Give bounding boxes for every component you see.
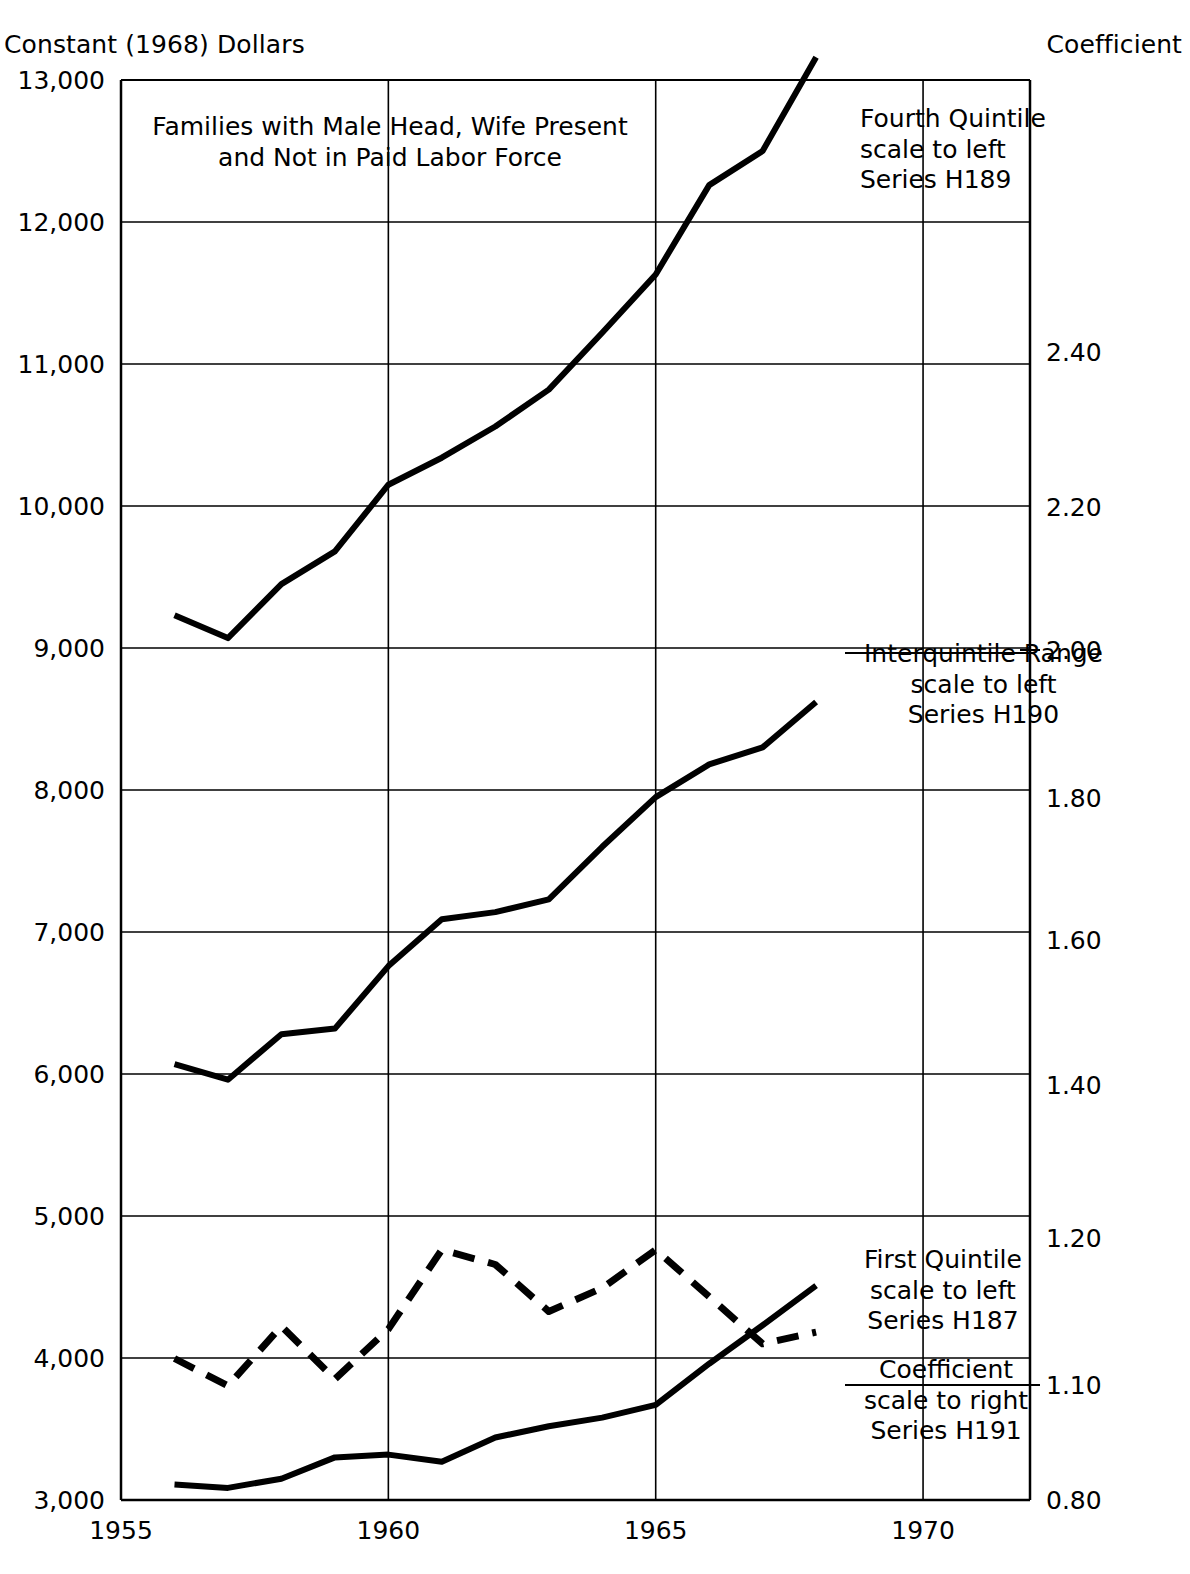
y-tick-label: 10,000	[0, 492, 105, 521]
series-line-H190	[175, 702, 817, 1080]
x-tick-label: 1965	[624, 1516, 688, 1545]
annotation-fourth-quintile-scale: scale to left	[860, 135, 1046, 166]
series-line-H187	[175, 1286, 817, 1488]
annotation-coefficient-name: Coefficient	[864, 1355, 1028, 1386]
y-tick-label: 6,000	[0, 1060, 105, 1089]
y2-tick-label: 1.60	[1046, 926, 1102, 955]
series-line-H191	[175, 1250, 817, 1386]
annotation-first-quintile-series: Series H187	[864, 1306, 1022, 1337]
plot-title: Families with Male Head, Wife Present an…	[152, 112, 627, 173]
annotation-first-quintile-scale: scale to left	[864, 1276, 1022, 1307]
y-tick-label: 7,000	[0, 918, 105, 947]
y-tick-label: 4,000	[0, 1344, 105, 1373]
y2-tick-label: 2.20	[1046, 493, 1102, 522]
chart-container: Constant (1968) Dollars Coefficient 3,00…	[0, 0, 1190, 1574]
annotation-first-quintile: First Quintile scale to left Series H187	[864, 1245, 1022, 1337]
annotation-coefficient: Coefficient scale to right Series H191	[864, 1355, 1028, 1447]
annotation-fourth-quintile-name: Fourth Quintile	[860, 104, 1046, 135]
y-tick-label: 13,000	[0, 66, 105, 95]
y-tick-label: 12,000	[0, 208, 105, 237]
y2-tick-label: 1.80	[1046, 784, 1102, 813]
annotation-fourth-quintile-series: Series H189	[860, 165, 1046, 196]
annotation-first-quintile-name: First Quintile	[864, 1245, 1022, 1276]
y-tick-label: 8,000	[0, 776, 105, 805]
plot-title-line-2: and Not in Paid Labor Force	[152, 143, 627, 174]
y-tick-label: 5,000	[0, 1202, 105, 1231]
x-tick-label: 1960	[357, 1516, 421, 1545]
annotation-interquintile-name: Interquintile Range	[864, 639, 1103, 670]
y2-tick-label: 1.40	[1046, 1071, 1102, 1100]
y-tick-label: 3,000	[0, 1486, 105, 1515]
y2-tick-label: 1.10	[1046, 1371, 1102, 1400]
y-tick-label: 11,000	[0, 350, 105, 379]
annotation-interquintile: Interquintile Range scale to left Series…	[864, 639, 1103, 731]
annotation-coefficient-scale: scale to right	[864, 1386, 1028, 1417]
annotation-interquintile-scale: scale to left	[864, 670, 1103, 701]
annotation-interquintile-series: Series H190	[864, 700, 1103, 731]
y2-tick-label: 1.20	[1046, 1224, 1102, 1253]
x-tick-label: 1970	[891, 1516, 955, 1545]
y2-tick-label: 0.80	[1046, 1486, 1102, 1515]
annotation-fourth-quintile: Fourth Quintile scale to left Series H18…	[860, 104, 1046, 196]
chart-plot-area	[0, 0, 1190, 1574]
annotation-coefficient-series: Series H191	[864, 1416, 1028, 1447]
plot-title-line-1: Families with Male Head, Wife Present	[152, 112, 627, 143]
y-tick-label: 9,000	[0, 634, 105, 663]
x-tick-label: 1955	[89, 1516, 153, 1545]
series-lines	[175, 57, 817, 1488]
y2-tick-label: 2.40	[1046, 338, 1102, 367]
